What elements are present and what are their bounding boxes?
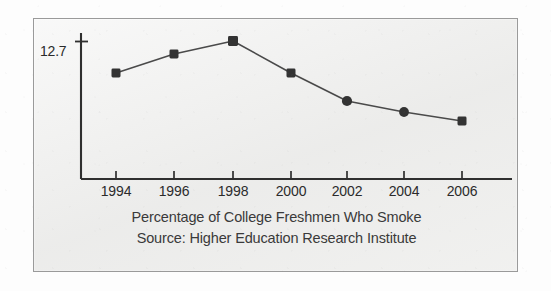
data-point-1994 [112, 69, 121, 78]
x-axis-label-1996: 1996 [151, 183, 197, 199]
data-point-1998 [228, 36, 238, 46]
scanned-page: 12.7 1994 1996 1998 2000 2002 2004 2006 … [0, 0, 551, 291]
y-axis-tick-label: 12.7 [40, 43, 66, 59]
figure-caption: Percentage of College Freshmen Who Smoke… [34, 207, 519, 249]
figure-frame: 12.7 1994 1996 1998 2000 2002 2004 2006 … [33, 18, 518, 272]
x-axis-label-2000: 2000 [268, 183, 314, 199]
data-point-2004 [399, 107, 409, 117]
data-point-2000 [287, 69, 296, 78]
data-series-line [116, 41, 462, 121]
x-axis-label-2004: 2004 [381, 183, 427, 199]
x-axis-label-2006: 2006 [439, 183, 485, 199]
x-axis-label-1998: 1998 [210, 183, 256, 199]
data-point-markers [112, 36, 467, 126]
caption-title-line: Percentage of College Freshmen Who Smoke [34, 207, 519, 228]
data-point-2002 [342, 96, 352, 106]
caption-source-line: Source: Higher Education Research Instit… [34, 228, 519, 249]
data-point-2006 [458, 117, 467, 126]
x-axis-ticks [116, 171, 462, 179]
data-point-1996 [170, 50, 179, 59]
x-axis-label-2002: 2002 [324, 183, 370, 199]
x-axis-label-1994: 1994 [93, 183, 139, 199]
